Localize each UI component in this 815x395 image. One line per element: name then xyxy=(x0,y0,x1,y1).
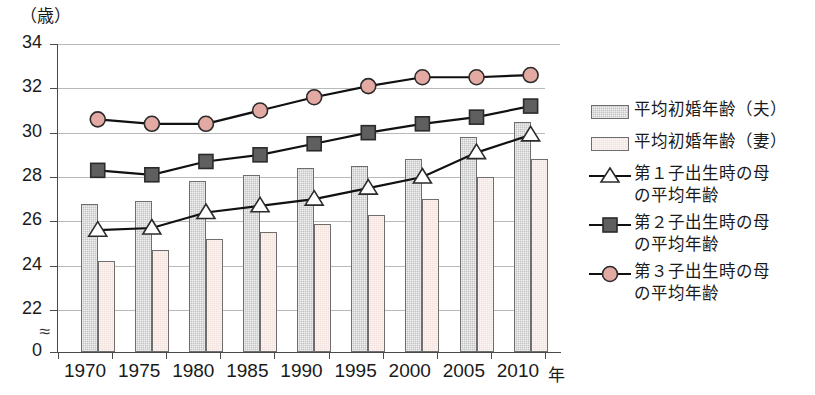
legend-label-1: 平均初婚年齢（夫） xyxy=(634,98,787,120)
bar-pink-swatch xyxy=(591,137,629,151)
marker-square-1995 xyxy=(361,126,375,140)
y-tick-label-24: 24 xyxy=(8,254,42,275)
line-square-icon xyxy=(586,212,634,238)
y-tick-mark-32 xyxy=(50,88,58,89)
legend-label-2: 平均初婚年齢（妻） xyxy=(634,130,787,152)
marker-circle-1995 xyxy=(361,79,376,94)
chart-container: （歳） 343230282624220 ≈ 197019751980198519… xyxy=(0,0,815,395)
marker-triangle-2010 xyxy=(522,126,540,141)
marker-square-2005 xyxy=(470,110,484,124)
x-tick-mark-8 xyxy=(491,352,492,359)
line-triangle-icon xyxy=(586,163,634,189)
x-tick-mark-3 xyxy=(220,352,221,359)
marker-circle-1980 xyxy=(198,116,213,131)
marker-square-2010 xyxy=(524,99,538,113)
legend-label-4: 第２子出生時の母 の平均年齢 xyxy=(634,211,770,255)
x-tick-mark-5 xyxy=(329,352,330,359)
y-tick-label-22: 22 xyxy=(8,298,42,319)
y-tick-label-30: 30 xyxy=(8,121,42,142)
marker-triangle-2000 xyxy=(413,169,431,184)
x-tick-mark-2 xyxy=(166,352,167,359)
x-tick-mark-1 xyxy=(112,352,113,359)
y-tick-mark-34 xyxy=(50,44,58,45)
x-axis-line xyxy=(57,352,561,353)
marker-square-1990 xyxy=(307,137,321,151)
y-tick-label-28: 28 xyxy=(8,165,42,186)
y-tick-mark-28 xyxy=(50,177,58,178)
legend-item-4[interactable]: 第２子出生時の母 の平均年齢 xyxy=(586,211,814,255)
marker-square-2000 xyxy=(415,117,429,131)
line-series-layer xyxy=(58,44,545,352)
marker-circle-1970 xyxy=(90,112,105,127)
marker-circle-1990 xyxy=(307,90,322,105)
plot-area xyxy=(58,44,545,352)
y-tick-label-32: 32 xyxy=(8,76,42,97)
marker-square-1975 xyxy=(145,168,159,182)
x-tick-mark-6 xyxy=(383,352,384,359)
legend-item-3[interactable]: 第１子出生時の母 の平均年齢 xyxy=(586,162,814,206)
marker-circle-1985 xyxy=(253,103,268,118)
y-tick-mark-26 xyxy=(50,221,58,222)
legend-item-1[interactable]: 平均初婚年齢（夫） xyxy=(586,98,814,125)
marker-square-1970 xyxy=(91,163,105,177)
legend-item-2[interactable]: 平均初婚年齢（妻） xyxy=(586,130,814,157)
bar-gray-icon xyxy=(586,99,634,125)
bar-pink-icon xyxy=(586,131,634,157)
chart-legend: 平均初婚年齢（夫）平均初婚年齢（妻）第１子出生時の母 の平均年齢第２子出生時の母… xyxy=(586,98,814,309)
line-circle-icon xyxy=(586,261,634,287)
y-tick-label-0: 0 xyxy=(8,340,42,361)
x-tick-label-2010: 2010 xyxy=(486,360,550,382)
x-tick-mark-9 xyxy=(545,352,546,359)
marker-square-1980 xyxy=(199,154,213,168)
axis-break-symbol: ≈ xyxy=(39,322,50,342)
y-tick-mark-30 xyxy=(50,133,58,134)
marker-circle-2010 xyxy=(523,68,538,83)
y-tick-mark-0 xyxy=(50,352,58,353)
legend-label-3: 第１子出生時の母 の平均年齢 xyxy=(634,162,770,206)
bar-gray-swatch xyxy=(591,105,629,119)
x-tick-mark-7 xyxy=(437,352,438,359)
marker-square-1985 xyxy=(253,148,267,162)
x-tick-mark-0 xyxy=(58,352,59,359)
y-tick-mark-24 xyxy=(50,266,58,267)
marker-circle-2005 xyxy=(469,70,484,85)
y-tick-label-34: 34 xyxy=(8,32,42,53)
legend-item-5[interactable]: 第３子出生時の母 の平均年齢 xyxy=(586,260,814,304)
x-tick-mark-4 xyxy=(274,352,275,359)
y-tick-label-26: 26 xyxy=(8,209,42,230)
marker-circle-1975 xyxy=(144,116,159,131)
y-axis-unit-label: （歳） xyxy=(20,2,71,27)
x-axis-unit-label: 年 xyxy=(548,361,565,386)
marker-circle-2000 xyxy=(415,70,430,85)
y-tick-mark-22 xyxy=(50,310,58,311)
legend-label-5: 第３子出生時の母 の平均年齢 xyxy=(634,260,770,304)
